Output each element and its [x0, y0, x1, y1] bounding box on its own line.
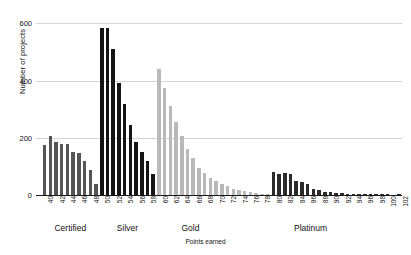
x-tick-label: 62	[173, 196, 180, 203]
x-tick-label: 102	[402, 196, 409, 207]
x-tick-label: 88	[322, 196, 329, 203]
x-tick-label: 44	[70, 196, 77, 203]
bar	[134, 142, 138, 195]
bar	[283, 173, 287, 195]
bar	[89, 170, 93, 195]
bar	[180, 136, 184, 195]
bar	[294, 181, 298, 195]
bar	[220, 184, 224, 195]
bar	[83, 161, 87, 195]
group-label-certified: Certified	[54, 223, 86, 233]
bar	[100, 28, 104, 195]
x-tick-label: 58	[150, 196, 157, 203]
bar	[54, 142, 58, 195]
histogram-chart: Number of projects 0200400600 4042444648…	[0, 0, 411, 255]
x-tick-label: 52	[116, 196, 123, 203]
x-tick-label: 54	[127, 196, 134, 203]
bar	[106, 28, 110, 195]
x-tick-label: 56	[139, 196, 146, 203]
x-tick-label: 100	[390, 196, 397, 207]
group-label-silver: Silver	[117, 223, 138, 233]
x-tick-label: 66	[196, 196, 203, 203]
bar-series	[36, 12, 402, 195]
bar	[157, 69, 161, 195]
bar	[43, 145, 47, 195]
bar	[94, 184, 98, 195]
bar	[129, 125, 133, 195]
x-tick-label: 82	[287, 196, 294, 203]
bar	[71, 152, 75, 195]
x-tick-label: 78	[264, 196, 271, 203]
bar	[197, 168, 201, 195]
y-tick-label: 200	[19, 133, 32, 142]
x-tick-label: 72	[230, 196, 237, 203]
bar	[169, 106, 173, 195]
bar	[117, 83, 121, 195]
bar	[289, 174, 293, 195]
bar	[77, 153, 81, 195]
bar	[49, 136, 53, 195]
y-tick-label: 400	[19, 76, 32, 85]
group-labels: CertifiedSilverGoldPlatinum	[36, 223, 402, 237]
y-tick-label: 600	[19, 19, 32, 28]
x-tick-label: 90	[333, 196, 340, 203]
group-label-platinum: Platinum	[294, 223, 327, 233]
bar	[209, 178, 213, 195]
plot-area: 0200400600	[36, 12, 402, 195]
x-tick-label: 42	[59, 196, 66, 203]
y-tick-label: 0	[28, 191, 32, 200]
bar	[60, 144, 64, 195]
group-label-gold: Gold	[181, 223, 199, 233]
bar	[300, 182, 304, 195]
bar	[277, 174, 281, 195]
x-tick-label: 48	[93, 196, 100, 203]
x-tick-label: 84	[299, 196, 306, 203]
x-tick-label: 76	[253, 196, 260, 203]
bar	[191, 158, 195, 195]
x-tick-label: 40	[47, 196, 54, 203]
bar	[140, 152, 144, 195]
x-tick-label: 96	[367, 196, 374, 203]
bar	[151, 174, 155, 195]
bar	[214, 181, 218, 195]
x-tick-label: 94	[356, 196, 363, 203]
x-tick-label: 64	[184, 196, 191, 203]
bar	[146, 161, 150, 195]
bar	[163, 88, 167, 195]
x-tick-label: 98	[379, 196, 386, 203]
bar	[306, 184, 310, 195]
x-tick-label: 74	[242, 196, 249, 203]
bar	[272, 172, 276, 195]
x-tick-label: 60	[162, 196, 169, 203]
bar	[174, 122, 178, 195]
x-tick-label: 50	[104, 196, 111, 203]
x-tick-label: 86	[310, 196, 317, 203]
x-axis-title: Points earned	[0, 238, 411, 245]
bar	[111, 49, 115, 195]
bar	[203, 173, 207, 195]
x-tick-label: 68	[207, 196, 214, 203]
x-tick-label: 70	[219, 196, 226, 203]
x-tick-label: 92	[345, 196, 352, 203]
x-tick-label: 46	[81, 196, 88, 203]
bar	[123, 104, 127, 196]
x-axis-ticks: 4042444648505254565860626466687072747678…	[36, 196, 402, 222]
bar	[66, 144, 70, 195]
bar	[186, 149, 190, 195]
bar	[226, 186, 230, 195]
x-tick-label: 80	[276, 196, 283, 203]
